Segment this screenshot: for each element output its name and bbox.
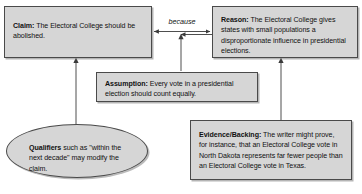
qualifiers-label: Qualifiers xyxy=(29,144,61,152)
assumption-text-block: Assumption: Every vote in a presidential… xyxy=(97,73,257,105)
reason-node: Reason: The Electoral College gives stat… xyxy=(212,6,358,58)
assumption-arrowhead-icon xyxy=(178,34,183,40)
claim-node: Claim: The Electoral College should be a… xyxy=(4,6,152,58)
claim-text-block: Claim: The Electoral College should be a… xyxy=(5,7,151,47)
qualifiers-text-block: Qualifiers such as "within the next deca… xyxy=(7,125,147,174)
claim-label: Claim: xyxy=(13,22,34,30)
qualifiers-node: Qualifiers such as "within the next deca… xyxy=(6,124,148,178)
evidence-label: Evidence/Backing: xyxy=(199,131,261,139)
because-connector-label: because xyxy=(158,17,206,26)
assumption-label: Assumption: xyxy=(105,80,148,88)
reason-text-block: Reason: The Electoral College gives stat… xyxy=(213,7,357,61)
evidence-text-block: Evidence/Backing: The writer might prove… xyxy=(191,121,351,176)
evidence-node: Evidence/Backing: The writer might prove… xyxy=(190,120,352,180)
diagram-canvas: Claim: The Electoral College should be a… xyxy=(0,0,362,194)
assumption-node: Assumption: Every vote in a presidential… xyxy=(96,72,258,102)
reason-label: Reason: xyxy=(221,16,249,24)
qualifiers-arrowhead-icon xyxy=(73,58,78,64)
